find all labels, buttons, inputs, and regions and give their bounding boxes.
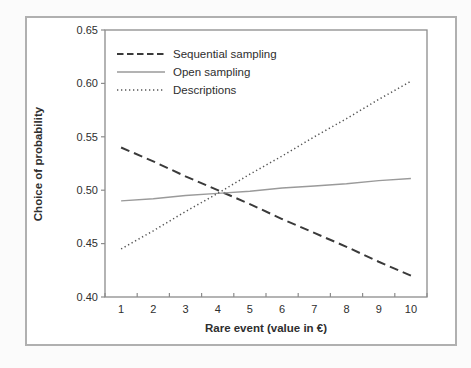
x-tick-label: 2: [150, 303, 156, 315]
x-tick-label: 5: [247, 303, 253, 315]
x-tick-label: 3: [182, 303, 188, 315]
x-tick-label: 8: [343, 303, 349, 315]
chart-layer: 0.400.450.500.550.600.6512345678910Seque…: [77, 24, 427, 315]
x-tick-label: 10: [405, 303, 417, 315]
series-line-dashed: [121, 147, 411, 275]
x-tick-label: 1: [118, 303, 124, 315]
legend-label: Descriptions: [173, 84, 237, 96]
series-line-solid: [121, 178, 411, 200]
x-tick-label: 6: [279, 303, 285, 315]
page-background: 0.400.450.500.550.600.6512345678910Seque…: [0, 0, 471, 368]
y-axis-title: Choice of probability: [32, 106, 44, 221]
series-line-dotted: [121, 81, 411, 249]
y-tick-label: 0.65: [77, 24, 98, 36]
legend-label: Sequential sampling: [173, 48, 277, 60]
x-tick-label: 4: [215, 303, 221, 315]
x-tick-label: 9: [376, 303, 382, 315]
y-tick-label: 0.55: [77, 131, 98, 143]
y-tick-label: 0.45: [77, 237, 98, 249]
x-tick-label: 7: [311, 303, 317, 315]
legend-label: Open sampling: [173, 66, 250, 78]
chart-svg: 0.400.450.500.550.600.6512345678910Seque…: [27, 18, 455, 344]
y-tick-label: 0.60: [77, 77, 98, 89]
plot-border: [105, 30, 427, 297]
y-tick-label: 0.50: [77, 184, 98, 196]
y-tick-label: 0.40: [77, 291, 98, 303]
x-axis-title: Rare event (value in €): [205, 322, 327, 334]
figure-frame: 0.400.450.500.550.600.6512345678910Seque…: [25, 16, 457, 346]
